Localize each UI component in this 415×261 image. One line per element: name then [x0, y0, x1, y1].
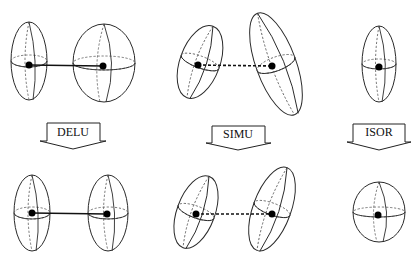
- isor-label: ISOR: [365, 125, 392, 139]
- atom-dot: [100, 63, 107, 70]
- atom-dot: [376, 64, 383, 71]
- delu-label: DELU: [57, 125, 89, 139]
- delu-arrow: DELU: [40, 123, 106, 149]
- atom-dot: [29, 210, 36, 217]
- simu-after-ellipsoid-right: [239, 161, 305, 257]
- delu-before-bond: [29, 65, 103, 66]
- simu-arrow: SIMU: [206, 126, 271, 150]
- simu-label: SIMU: [223, 127, 253, 141]
- atom-dot: [26, 62, 33, 69]
- isor-arrow: ISOR: [347, 124, 411, 150]
- atom-dot: [375, 212, 382, 219]
- restraints-diagram: DELU SIMU ISOR: [0, 0, 415, 261]
- atom-dot: [269, 211, 276, 218]
- atom-dot: [193, 211, 200, 218]
- simu-before-ellipsoid-right: [239, 6, 314, 121]
- delu-after-bond: [32, 213, 107, 214]
- atom-dot: [269, 63, 276, 70]
- atom-dot: [195, 62, 202, 69]
- simu-before-ellipsoid-left: [168, 19, 232, 104]
- atom-dot: [104, 211, 111, 218]
- delu-before-ellipsoid-left: [11, 22, 47, 100]
- simu-before-bond: [198, 65, 272, 66]
